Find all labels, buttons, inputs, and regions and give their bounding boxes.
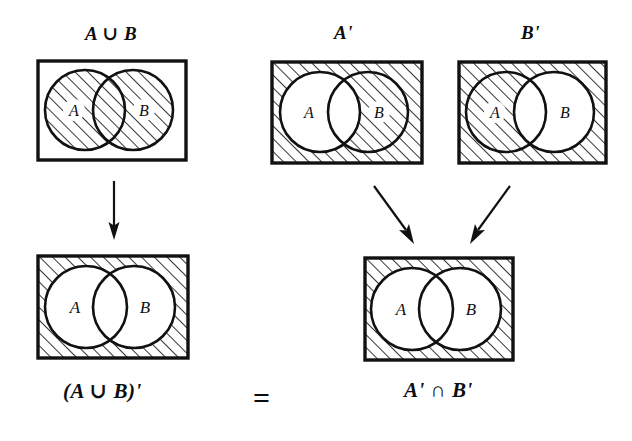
set-label-b: B: [139, 102, 149, 119]
diagram-a-prime-inter-b-prime: A B: [357, 250, 525, 371]
set-label-b: B: [140, 298, 151, 317]
caption-b-prime: B': [521, 22, 540, 44]
set-label-b: B: [466, 300, 477, 319]
diagram-a-union-b-prime: A B: [30, 248, 200, 369]
equals-sign: =: [253, 381, 270, 415]
set-label-a: A: [303, 104, 314, 121]
set-label-b: B: [374, 104, 384, 121]
set-label-a: A: [489, 104, 500, 121]
set-label-a: A: [69, 298, 81, 317]
diagram-a-prime: A B: [264, 54, 434, 174]
set-label-a: A: [395, 300, 407, 319]
caption-a-union-b: A ∪ B: [85, 22, 137, 45]
arrow-diagonal-left: [368, 182, 424, 248]
arrow-diagonal-right: [460, 182, 516, 248]
diagram-b-prime: A B: [451, 54, 618, 174]
caption-a-union-b-prime: (A ∪ B)': [63, 378, 142, 404]
caption-a-prime-inter-b-prime: A' ∩ B': [404, 378, 473, 403]
set-label-a: A: [68, 102, 79, 119]
figure-canvas: A ∪ B A B: [0, 0, 632, 441]
arrow-down-left: [100, 178, 130, 242]
diagram-a-union-b: A B: [30, 53, 198, 171]
caption-a-prime: A': [334, 22, 353, 44]
set-label-b: B: [560, 104, 570, 121]
